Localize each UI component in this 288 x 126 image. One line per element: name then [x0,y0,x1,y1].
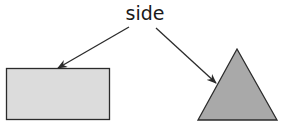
triangle-shape [198,49,277,120]
diagram-canvas [0,0,288,126]
arrow-to-rectangle [58,27,129,68]
arrow-to-triangle [156,28,216,83]
rectangle-shape [7,69,110,120]
